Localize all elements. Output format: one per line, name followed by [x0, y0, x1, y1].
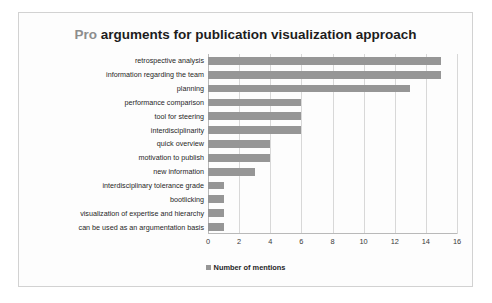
bar [208, 126, 301, 134]
chart-title-emphasis: Pro [74, 27, 97, 42]
category-label: bootlicking [170, 195, 204, 204]
bar-row: tool for steering [208, 109, 457, 123]
category-label: interdisciplinary tolerance grade [103, 181, 204, 190]
category-label: new information [153, 167, 204, 176]
category-label: can be used as an argumentation basis [79, 223, 204, 232]
bar-row: motivation to publish [208, 151, 457, 165]
gridline-16 [457, 54, 458, 234]
bar-row: interdisciplinarity [208, 123, 457, 137]
category-label: information regarding the team [106, 70, 204, 79]
bar [208, 209, 224, 217]
x-tick-label: 8 [323, 237, 343, 246]
category-label: quick overview [157, 139, 204, 148]
bar [208, 71, 441, 79]
bar-row: visualization of expertise and hierarchy [208, 206, 457, 220]
x-axis-line [208, 233, 457, 234]
bar [208, 57, 441, 65]
category-label: visualization of expertise and hierarchy [80, 209, 204, 218]
bar [208, 223, 224, 231]
x-tick-label: 10 [354, 237, 374, 246]
category-label: performance comparison [125, 98, 205, 107]
category-label: motivation to publish [138, 153, 204, 162]
category-label: tool for steering [154, 112, 204, 121]
x-tick-label: 14 [416, 237, 436, 246]
x-tick-label: 4 [260, 237, 280, 246]
bar-row: information regarding the team [208, 68, 457, 82]
bar [208, 168, 255, 176]
bar [208, 182, 224, 190]
category-label: planning [177, 84, 204, 93]
plot-area: retrospective analysisinformation regard… [208, 54, 457, 234]
bar-row: retrospective analysis [208, 54, 457, 68]
legend-label: Number of mentions [214, 263, 286, 273]
bar-row: new information [208, 165, 457, 179]
bar [208, 85, 410, 93]
bar [208, 154, 270, 162]
chart-frame: Pro arguments for publication visualizat… [18, 12, 473, 287]
bar [208, 112, 301, 120]
x-tick-label: 12 [385, 237, 405, 246]
chart-title-rest: arguments for publication visualization … [101, 27, 417, 42]
bar [208, 99, 301, 107]
bar-row: interdisciplinary tolerance grade [208, 179, 457, 193]
chart-title: Pro arguments for publication visualizat… [19, 27, 472, 43]
legend-swatch-icon [206, 265, 211, 270]
x-tick-label: 16 [447, 237, 467, 246]
bar-row: planning [208, 82, 457, 96]
x-tick-label: 6 [291, 237, 311, 246]
bar-row: bootlicking [208, 192, 457, 206]
bar-row: can be used as an argumentation basis [208, 220, 457, 234]
bar-series: retrospective analysisinformation regard… [208, 54, 457, 234]
category-label: interdisciplinarity [151, 126, 204, 135]
bar [208, 195, 224, 203]
bar [208, 140, 270, 148]
bar-row: quick overview [208, 137, 457, 151]
x-tick-label: 2 [229, 237, 249, 246]
category-label: retrospective analysis [135, 56, 204, 65]
chart-legend: Number of mentions [19, 263, 472, 273]
bar-row: performance comparison [208, 96, 457, 110]
x-tick-label: 0 [198, 237, 218, 246]
